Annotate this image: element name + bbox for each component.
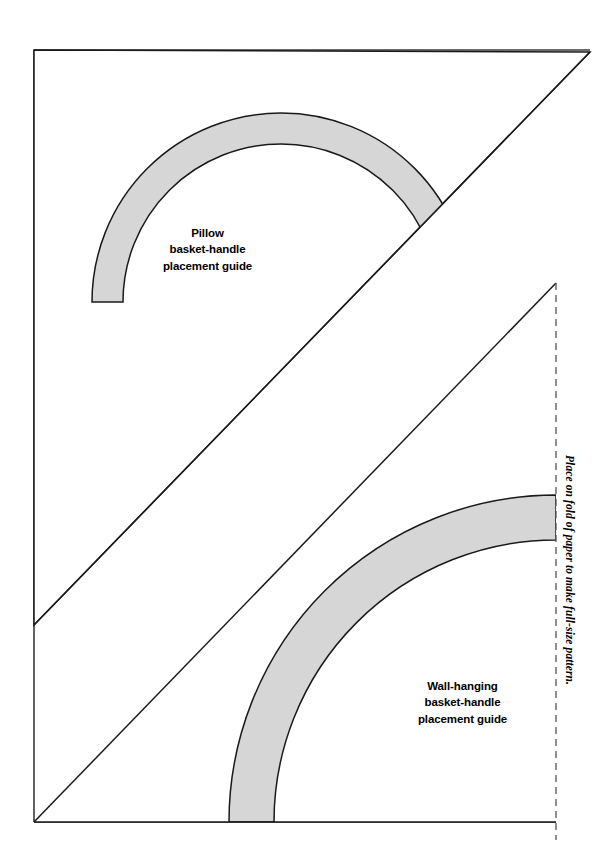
pattern-drawing (0, 0, 609, 863)
pillow-placement-label: Pillow basket-handle placement guide (120, 225, 295, 274)
wall-hanging-label-line-2: basket-handle (375, 694, 550, 710)
pattern-sheet: Pillow basket-handle placement guide Wal… (0, 0, 609, 863)
pillow-label-line-1: Pillow (120, 225, 295, 241)
pillow-label-line-3: placement guide (120, 258, 295, 274)
fold-instruction-text: Place on fold of paper to make full-size… (564, 455, 576, 685)
wall-hanging-label-line-1: Wall-hanging (375, 678, 550, 694)
wall-hanging-placement-label: Wall-hanging basket-handle placement gui… (375, 678, 550, 727)
pillow-label-line-2: basket-handle (120, 241, 295, 257)
wall-hanging-label-line-3: placement guide (375, 711, 550, 727)
